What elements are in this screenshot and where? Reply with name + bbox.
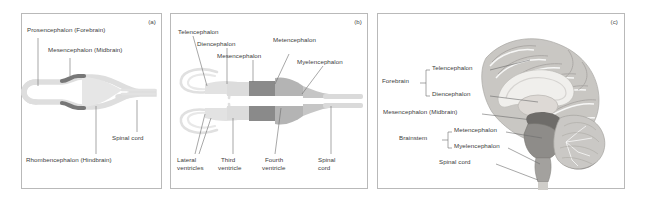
brain-development-figure: (a) xyxy=(0,0,648,204)
label-third-ventricle-line1: Third xyxy=(221,156,235,163)
label-fourth-ventricle-line1: Fourth xyxy=(265,156,283,163)
forebrain-bracket xyxy=(420,70,430,96)
label-mesencephalon: Mesencephalon xyxy=(217,52,261,59)
label-prosencephalon: Prosencephalon (Forebrain) xyxy=(27,26,105,33)
panel-a-three-vesicle: (a) xyxy=(21,13,162,189)
label-telencephalon: Telencephalon xyxy=(432,64,473,71)
label-myelencephalon: Myelencephalon xyxy=(297,58,343,65)
label-diencephalon: Diencephalon xyxy=(432,90,470,97)
fourth-ventricle-space xyxy=(275,98,329,104)
label-brainstem: Brainstem xyxy=(399,134,427,141)
brainstem-bracket xyxy=(442,132,452,148)
label-diencephalon: Diencephalon xyxy=(197,40,235,47)
label-fourth-ventricle-line2: ventricle xyxy=(262,164,286,171)
label-spinal-cord-line1: Spinal xyxy=(318,156,336,163)
brainstem-region xyxy=(524,123,560,182)
label-spinal-cord-line2: cord xyxy=(318,164,330,171)
cerebellum-shape xyxy=(554,115,605,169)
telencephalon-diencephalon-body xyxy=(205,81,251,121)
label-mesencephalon: Mesencephalon (Midbrain) xyxy=(383,108,457,115)
panel-c-illustration xyxy=(378,14,624,188)
label-rhombencephalon: Rhombencephalon (Hindbrain) xyxy=(26,156,112,163)
label-third-ventricle-line2: ventricle xyxy=(218,164,242,171)
panel-c-adult-brain: (c) xyxy=(377,13,625,189)
label-metencephalon: Metencephalon xyxy=(273,36,316,43)
label-metencephalon: Metencephalon xyxy=(454,126,497,133)
label-spinal-cord: Spinal cord xyxy=(112,134,144,141)
mesencephalon-block xyxy=(249,81,275,121)
neural-tube-shape xyxy=(24,77,155,107)
panel-b-five-vesicle: (b) xyxy=(170,13,368,189)
label-myelencephalon: Myelencephalon xyxy=(454,142,500,149)
spinal-cord-region xyxy=(538,182,548,190)
label-telencephalon: Telencephalon xyxy=(178,28,219,35)
label-forebrain: Forebrain xyxy=(382,77,409,84)
label-spinal-cord: Spinal cord xyxy=(439,158,471,165)
label-lateral-ventricles-line2: ventricles xyxy=(177,164,204,171)
label-mesencephalon: Mesencephalon (Midbrain) xyxy=(48,46,122,53)
label-lateral-ventricles-line1: Lateral xyxy=(177,156,196,163)
